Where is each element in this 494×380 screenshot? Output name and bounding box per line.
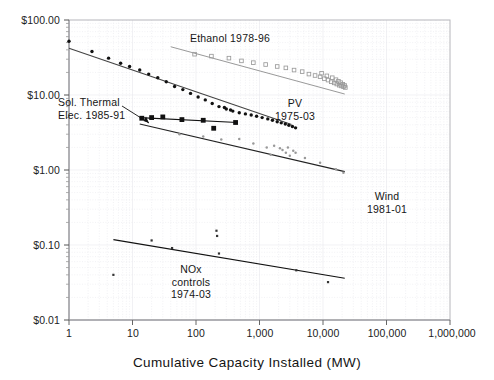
series-annotation-pv-line1: PV	[288, 97, 302, 109]
series-2	[139, 115, 238, 131]
x-tick-label: 1	[39, 327, 99, 339]
series-annotation-ethanol: Ethanol 1978-96	[160, 32, 300, 45]
x-axis-title: Cumulative Capacity Installed (MW)	[0, 355, 494, 370]
series-annotation-solar-thermal-line2: Elec. 1985-91	[58, 109, 125, 121]
series-annotation-nox-line2: controls	[172, 276, 210, 288]
x-tick-label: 1,000,000	[420, 327, 484, 339]
x-tick-label: 100	[166, 327, 226, 339]
x-tick-label: 1,000	[230, 327, 290, 339]
series-annotation-solar-thermal-line1: Sol. Thermal	[58, 96, 120, 108]
x-tick-label: 10,000	[293, 327, 353, 339]
series-annotation-solar-thermal: Sol. Thermal Elec. 1985-91	[58, 96, 148, 121]
series-annotation-nox-line1: NOx	[180, 263, 202, 275]
series-annotation-nox: NOx controls 1974-03	[156, 263, 226, 301]
y-tick-label: $10.00	[0, 89, 60, 101]
series-annotation-pv: PV 1975-03	[265, 97, 325, 122]
y-tick-label: $100.00	[0, 14, 60, 26]
y-tick-label: $0.10	[0, 239, 60, 251]
series-annotation-wind-line1: Wind	[375, 190, 400, 202]
y-tick-label: $0.01	[0, 314, 60, 326]
series-annotation-wind: Wind 1981-01	[352, 190, 422, 215]
series-0	[171, 47, 347, 94]
series-annotation-pv-line2: 1975-03	[275, 110, 315, 122]
series-annotation-nox-line3: 1974-03	[171, 288, 211, 300]
x-tick-label: 10	[103, 327, 163, 339]
grid-lines	[69, 20, 450, 320]
x-tick-label: 100,000	[357, 327, 417, 339]
series-annotation-wind-line2: 1981-01	[367, 203, 407, 215]
series-annotation-ethanol-text: Ethanol 1978-96	[190, 32, 270, 44]
axis-ticks	[64, 20, 450, 325]
y-tick-label: $1.00	[0, 164, 60, 176]
chart-container: $100.00 $10.00 $1.00 $0.10 $0.01 1 10 10…	[0, 0, 494, 380]
